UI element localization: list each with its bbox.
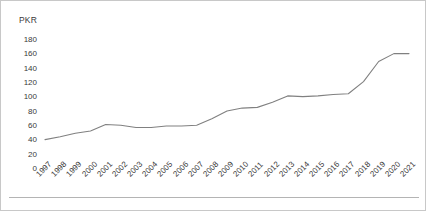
x-tick-label: 2012	[263, 160, 281, 178]
x-tick-label: 2005	[156, 160, 174, 178]
plot-area: PKR 180160140120100806040200 19971998199…	[1, 1, 426, 211]
x-tick-label: 2018	[354, 160, 372, 178]
x-axis-tick-labels: 1997199819992000200120022003200420052006…	[1, 1, 426, 211]
chart-container: PKR 180160140120100806040200 19971998199…	[0, 0, 426, 211]
x-axis-baseline	[9, 197, 419, 198]
x-tick-label: 2006	[172, 160, 190, 178]
x-tick-label: 2000	[81, 160, 99, 178]
x-tick-label: 2011	[247, 161, 265, 179]
x-tick-label: 1999	[65, 160, 83, 178]
x-tick-label: 2017	[338, 160, 356, 178]
x-tick-label: 2021	[399, 160, 417, 178]
